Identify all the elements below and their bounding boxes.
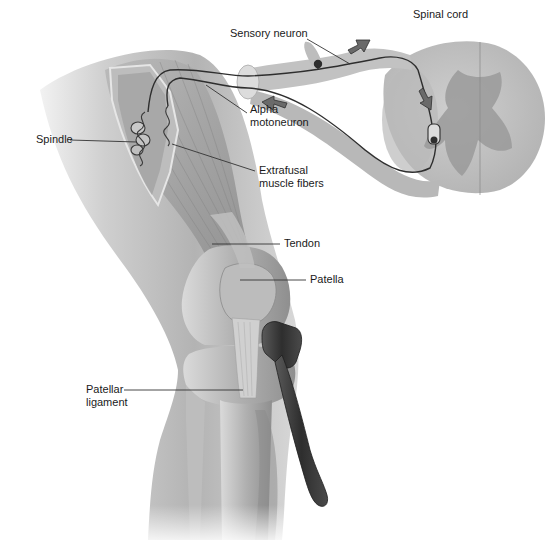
- label-extrafusal-line1: Extrafusal: [259, 164, 324, 177]
- label-extrafusal-muscle-fibers: Extrafusal muscle fibers: [259, 164, 324, 190]
- label-patella: Patella: [310, 273, 344, 286]
- reflex-arc-diagram: Spinal cord Sensory neuron Alpha motoneu…: [0, 0, 549, 547]
- label-alpha-motoneuron-line1: Alpha: [250, 103, 309, 116]
- label-sensory-neuron: Sensory neuron: [230, 27, 308, 40]
- label-spindle: Spindle: [36, 133, 73, 146]
- label-tendon: Tendon: [284, 237, 320, 250]
- synapse: [428, 124, 440, 144]
- label-alpha-motoneuron-line2: motoneuron: [250, 116, 309, 129]
- label-alpha-motoneuron: Alpha motoneuron: [250, 103, 309, 129]
- label-spinal-cord: Spinal cord: [413, 8, 468, 21]
- label-patellar-ligament-line1: Patellar: [86, 383, 128, 396]
- anatomy-illustration: [0, 0, 549, 547]
- label-patellar-ligament-line2: ligament: [86, 396, 128, 409]
- label-patellar-ligament: Patellar ligament: [86, 383, 128, 409]
- patella-bone: [220, 263, 276, 324]
- label-extrafusal-line2: muscle fibers: [259, 177, 324, 190]
